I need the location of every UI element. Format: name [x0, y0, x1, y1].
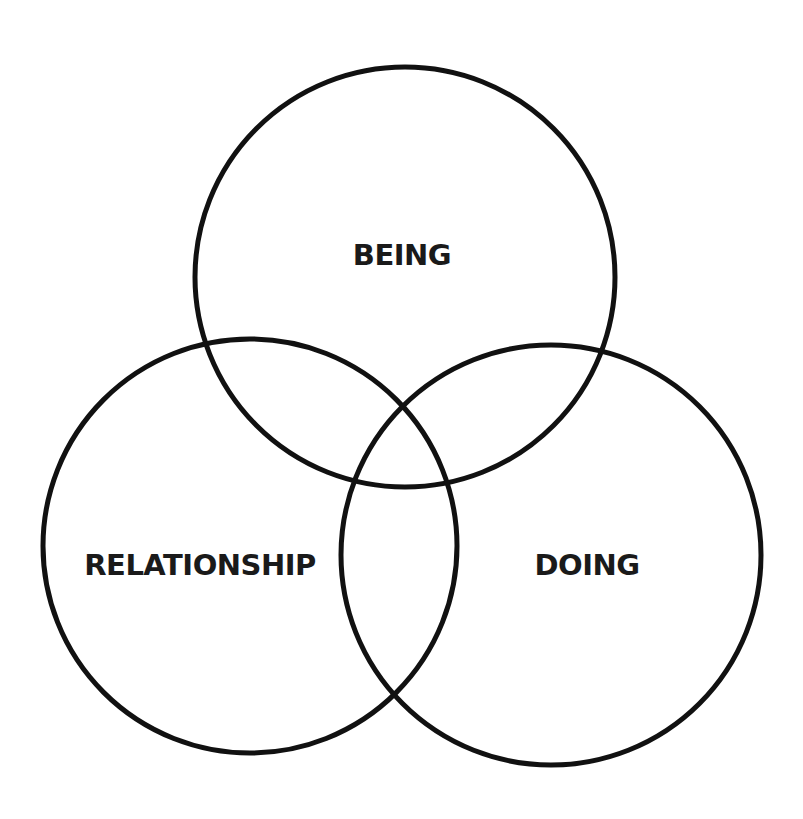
label-doing: DOING [534, 551, 639, 580]
label-being: BEING [353, 241, 451, 270]
circle-relationship [43, 339, 457, 753]
circle-being [195, 67, 615, 487]
venn-circles [0, 0, 803, 819]
label-relationship: RELATIONSHIP [84, 551, 316, 580]
venn-diagram: BEING RELATIONSHIP DOING [0, 0, 803, 819]
